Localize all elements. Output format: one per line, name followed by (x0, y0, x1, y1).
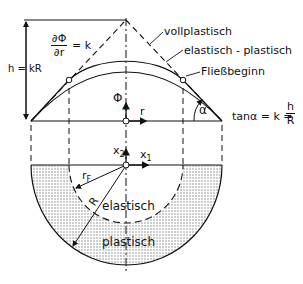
label-r: r (140, 106, 145, 117)
h-numerator: h (286, 101, 295, 114)
label-vollplastisch: vollplastisch (164, 26, 232, 37)
tan-alpha-eq: tanα = k = (232, 111, 293, 122)
label-elastisch-plastisch: elastisch - plastisch (184, 45, 292, 56)
label-h-eq: h = kR (8, 64, 42, 74)
dphi-numerator: ∂Φ (51, 33, 67, 46)
x2-sub: 2 (120, 150, 125, 159)
R-denominator: R (286, 114, 295, 126)
label-plastisch: plastisch (102, 236, 155, 248)
label-alpha: α (199, 104, 207, 116)
label-x2: x2 (113, 145, 125, 159)
dphi-dr-fraction: ∂Φ ∂r (51, 33, 67, 58)
rF-sub: F (87, 175, 92, 184)
label-phi: Φ (113, 92, 122, 104)
diagram: vollplastisch elastisch - plastisch Flie… (0, 0, 303, 284)
h-over-R-fraction: h R (286, 101, 295, 126)
x1-sub: 1 (147, 154, 152, 163)
label-rF: rF (82, 170, 91, 184)
dphi-denominator: ∂r (51, 46, 67, 58)
label-elastisch: elastisch (102, 200, 155, 212)
label-fliessbeginn: Fließbeginn (201, 66, 265, 77)
label-x1: x1 (140, 149, 152, 163)
dphi-eq: = k (72, 40, 91, 51)
